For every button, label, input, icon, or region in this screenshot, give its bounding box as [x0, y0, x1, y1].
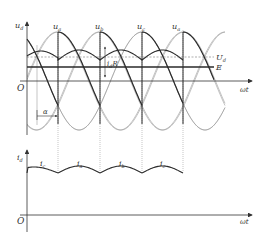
current-label-ic-1: ic	[40, 159, 46, 169]
output-voltage-curve	[27, 32, 214, 106]
top-origin-label: O	[17, 83, 25, 93]
alpha-label: α	[43, 108, 48, 116]
bottom-x-axis-label: ωt	[240, 218, 249, 226]
rectifier-waveform-diagram: ud O ωt ua ub uc ua Ud E idR α id O ωt i…	[0, 0, 266, 242]
phase-label-ub: ub	[95, 22, 103, 32]
e-level-label: E	[215, 63, 222, 72]
top-x-axis-label: ωt	[240, 86, 249, 94]
bottom-plot: id O ωt ic ia ib ic	[17, 150, 252, 232]
top-y-axis-label: ud	[15, 21, 23, 31]
phase-label-uc: uc	[137, 22, 145, 32]
current-label-ic-2: ic	[160, 159, 166, 169]
phase-label-ua-2: ua	[172, 22, 180, 32]
top-plot: ud O ωt ua ub uc ua Ud E idR α	[15, 21, 252, 172]
idr-label: idR	[107, 60, 118, 69]
ud-level-label: Ud	[216, 53, 226, 63]
phase-label-ua-1: ua	[53, 22, 61, 32]
bottom-origin-label: O	[17, 216, 25, 226]
bottom-y-axis-label: id	[17, 153, 23, 163]
current-label-ib: ib	[119, 159, 125, 169]
current-label-ia: ia	[77, 159, 83, 169]
firing-lines	[58, 32, 183, 124]
